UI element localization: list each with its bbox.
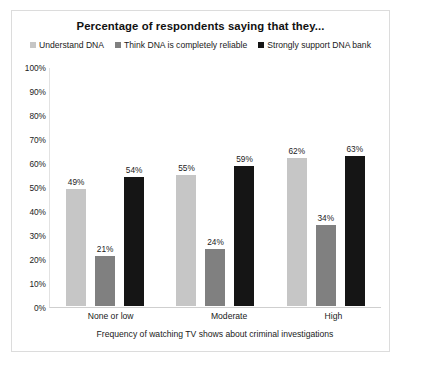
bar-value-label: 21%: [97, 244, 114, 254]
chart-legend: Understand DNA Think DNA is completely r…: [12, 40, 389, 50]
bar-slot: 59%: [234, 68, 254, 306]
x-axis-title: Frequency of watching TV shows about cri…: [49, 329, 381, 339]
y-axis-tick: 0%: [34, 303, 46, 313]
bar-group: 49%21%54%: [66, 68, 144, 306]
legend-label-reliable: Think DNA is completely reliable: [124, 40, 247, 50]
bar[interactable]: 54%: [124, 177, 144, 306]
bar-value-label: 49%: [68, 177, 85, 187]
legend-label-understand-dna: Understand DNA: [39, 40, 104, 50]
bar[interactable]: 55%: [176, 175, 196, 306]
bar[interactable]: 49%: [66, 189, 86, 306]
bar-value-label: 59%: [236, 154, 253, 164]
y-axis-tick: 20%: [29, 255, 46, 265]
bar-slot: 24%: [205, 68, 225, 306]
y-axis-tick: 70%: [29, 135, 46, 145]
bar-value-label: 62%: [289, 146, 306, 156]
legend-label-dna-bank: Strongly support DNA bank: [267, 40, 371, 50]
bar[interactable]: 24%: [205, 249, 225, 306]
bar-slot: 34%: [316, 68, 336, 306]
bar-value-label: 34%: [318, 213, 335, 223]
y-axis-tick: 40%: [29, 207, 46, 217]
legend-item-understand-dna[interactable]: Understand DNA: [30, 40, 104, 50]
bar-value-label: 54%: [126, 165, 143, 175]
bar-value-label: 55%: [178, 163, 195, 173]
bar[interactable]: 63%: [345, 156, 365, 306]
y-axis-tick: 80%: [29, 111, 46, 121]
legend-swatch-reliable: [115, 42, 121, 48]
bar-slot: 21%: [95, 68, 115, 306]
legend-item-reliable[interactable]: Think DNA is completely reliable: [115, 40, 247, 50]
bar[interactable]: 34%: [316, 225, 336, 306]
bar-groups: 49%21%54%55%24%59%62%34%63%: [50, 68, 381, 306]
bar-group: 62%34%63%: [287, 68, 365, 306]
x-axis-category-label: None or low: [88, 311, 134, 321]
y-axis-tick: 100%: [25, 63, 46, 73]
plot-area: 49%21%54%55%24%59%62%34%63%: [49, 68, 381, 308]
y-axis-tick: 30%: [29, 231, 46, 241]
chart-container: Percentage of respondents saying that th…: [11, 10, 390, 352]
bar[interactable]: 21%: [95, 256, 115, 306]
y-axis-tick: 50%: [29, 183, 46, 193]
plot-wrapper: 100%90%80%70%60%50%40%30%20%10%0% 49%21%…: [12, 68, 389, 353]
legend-swatch-understand-dna: [30, 42, 36, 48]
chart-title: Percentage of respondents saying that th…: [12, 20, 389, 32]
y-axis: 100%90%80%70%60%50%40%30%20%10%0%: [12, 68, 49, 308]
x-axis-tick-labels: None or lowModerateHigh: [49, 311, 381, 321]
x-axis-category-label: High: [325, 311, 343, 321]
y-axis-tick: 60%: [29, 159, 46, 169]
y-axis-tick: 10%: [29, 279, 46, 289]
bar-group: 55%24%59%: [176, 68, 254, 306]
bar-slot: 62%: [287, 68, 307, 306]
bar-value-label: 63%: [347, 144, 364, 154]
bar-value-label: 24%: [207, 237, 224, 247]
bar-slot: 49%: [66, 68, 86, 306]
bar-slot: 54%: [124, 68, 144, 306]
legend-swatch-dna-bank: [258, 42, 264, 48]
bar[interactable]: 62%: [287, 158, 307, 306]
bar-slot: 55%: [176, 68, 196, 306]
y-axis-tick: 90%: [29, 87, 46, 97]
bar[interactable]: 59%: [234, 166, 254, 306]
x-axis-category-label: Moderate: [211, 311, 247, 321]
bar-slot: 63%: [345, 68, 365, 306]
legend-item-dna-bank[interactable]: Strongly support DNA bank: [258, 40, 371, 50]
